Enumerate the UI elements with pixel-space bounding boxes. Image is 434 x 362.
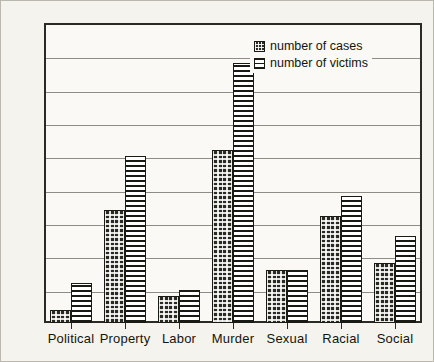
- legend-label-victims: number of victims: [270, 56, 368, 70]
- x-tick-label: Labor: [152, 331, 206, 346]
- x-tick-mark: [71, 323, 72, 329]
- gridline: [46, 225, 420, 226]
- x-tick-mark: [233, 323, 234, 329]
- gridline: [46, 192, 420, 193]
- x-tick-label: Political: [44, 331, 98, 346]
- x-tick-label: Racial: [314, 331, 368, 346]
- legend-label-cases: number of cases: [270, 39, 362, 53]
- gridline: [46, 258, 420, 259]
- bar-chart: 051015202530354045 PoliticalPropertyLabo…: [0, 0, 434, 362]
- x-tick-mark: [287, 323, 288, 329]
- gridline: [46, 92, 420, 93]
- gridline: [46, 158, 420, 159]
- x-tick-label: Murder: [206, 331, 260, 346]
- legend-item-cases: number of cases: [254, 39, 368, 53]
- legend-swatch-cases-icon: [254, 41, 265, 52]
- legend-swatch-victims-icon: [254, 58, 265, 69]
- chart-legend: number of cases number of victims: [250, 37, 372, 73]
- x-tick-mark: [179, 323, 180, 329]
- x-tick-mark: [125, 323, 126, 329]
- x-tick-label: Property: [98, 331, 152, 346]
- x-tick-label: Sexual: [260, 331, 314, 346]
- gridline: [46, 125, 420, 126]
- legend-item-victims: number of victims: [254, 56, 368, 70]
- gridline: [46, 292, 420, 293]
- x-tick-label: Social: [368, 331, 422, 346]
- x-tick-mark: [395, 323, 396, 329]
- x-tick-mark: [341, 323, 342, 329]
